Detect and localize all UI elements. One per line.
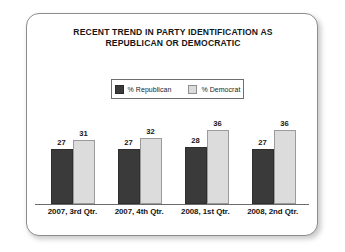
- legend-item-democrat: % Democrat: [188, 85, 240, 94]
- bar-group: 2731: [51, 140, 95, 204]
- chart-card: RECENT TREND IN PARTY IDENTIFICATION AS …: [26, 13, 318, 236]
- bar-republican: [252, 149, 274, 204]
- bar-column: 27: [51, 149, 73, 204]
- x-axis-label: 2007, 3rd Qtr.: [48, 207, 97, 216]
- bar-column: 28: [185, 147, 207, 204]
- x-axis-label: 2008, 1st Qtr.: [181, 207, 229, 216]
- bar-column: 32: [140, 138, 162, 204]
- bar-column: 27: [118, 149, 140, 204]
- dark-square-swatch-icon: [115, 85, 124, 94]
- bar-value-label: 27: [124, 139, 132, 147]
- chart-title-line-1: RECENT TREND IN PARTY IDENTIFICATION AS: [27, 27, 319, 38]
- bar-column: 36: [274, 130, 296, 204]
- light-square-swatch-icon: [188, 85, 197, 94]
- bar-column: 27: [252, 149, 274, 204]
- chart-title: RECENT TREND IN PARTY IDENTIFICATION AS …: [27, 27, 319, 50]
- bar-group: 2836: [185, 130, 229, 204]
- chart-legend: % Republican % Democrat: [111, 79, 244, 99]
- bar-value-label: 31: [79, 130, 87, 138]
- bar-group: 2732: [118, 138, 162, 204]
- bar-group: 2736: [252, 130, 296, 204]
- chart-screenshot: RECENT TREND IN PARTY IDENTIFICATION AS …: [0, 0, 345, 252]
- bar-value-label: 27: [258, 139, 266, 147]
- bar-groups: 2731273228362736: [39, 122, 307, 204]
- bar-column: 36: [207, 130, 229, 204]
- bar-democrat: [274, 130, 296, 204]
- bar-democrat: [207, 130, 229, 204]
- bar-value-label: 32: [146, 128, 154, 136]
- legend-label-democrat: % Democrat: [201, 86, 240, 93]
- x-axis-labels: 2007, 3rd Qtr.2007, 4th Qtr.2008, 1st Qt…: [39, 207, 307, 221]
- bar-democrat: [140, 138, 162, 204]
- bar-value-label: 27: [57, 139, 65, 147]
- plot-area: 2731273228362736: [39, 122, 307, 204]
- x-axis-line: [35, 204, 309, 205]
- bar-value-label: 36: [213, 120, 221, 128]
- bar-value-label: 28: [191, 137, 199, 145]
- bar-republican: [118, 149, 140, 204]
- bar-republican: [51, 149, 73, 204]
- legend-label-republican: % Republican: [128, 86, 172, 93]
- bar-column: 31: [73, 140, 95, 204]
- bar-republican: [185, 147, 207, 204]
- x-axis-label: 2008, 2nd Qtr.: [247, 207, 298, 216]
- x-axis-label: 2007, 4th Qtr.: [115, 207, 164, 216]
- bar-value-label: 36: [280, 120, 288, 128]
- bar-democrat: [73, 140, 95, 204]
- legend-item-republican: % Republican: [115, 85, 172, 94]
- chart-title-line-2: REPUBLICAN OR DEMOCRATIC: [27, 38, 319, 49]
